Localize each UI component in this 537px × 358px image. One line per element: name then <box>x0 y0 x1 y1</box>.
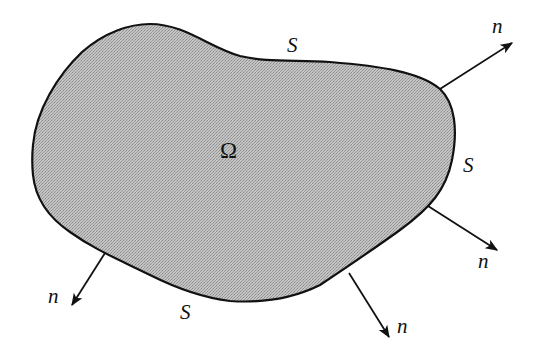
boundary-label-right: S <box>463 153 474 177</box>
normal-arrow-bottom <box>349 273 389 337</box>
boundary-label-top: S <box>287 33 298 57</box>
normal-arrow-bottom-left <box>72 253 105 305</box>
boundary-label-bottom: S <box>180 300 191 324</box>
region-label: Ω <box>220 138 237 163</box>
normal-arrow-top-right <box>440 43 512 89</box>
normal-label-bottom-left: n <box>48 284 59 308</box>
normal-arrow-right <box>428 206 497 250</box>
normal-label-top-right: n <box>492 14 503 38</box>
normal-label-bottom: n <box>397 314 408 338</box>
domain-diagram: Ω S S S n n n n <box>0 0 537 358</box>
normal-label-right: n <box>478 249 489 273</box>
region-omega <box>32 24 455 302</box>
